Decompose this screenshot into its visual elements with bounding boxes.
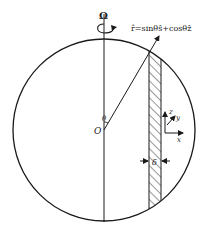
boundary-layer-strip: [149, 30, 161, 230]
z-axis-label: z: [168, 108, 173, 116]
radial-vector-label: r̂=sinθŝ+cosθẑ: [131, 24, 191, 33]
rotation-arrow-icon: [98, 24, 117, 33]
origin-label: O: [94, 126, 102, 136]
y-axis-label: y: [175, 114, 181, 122]
x-axis-label: x: [177, 136, 181, 144]
delta-label: δ: [152, 158, 157, 167]
sphere-diagram: Ω r̂=sinθŝ+cosθẑ θ O z y x δ: [0, 0, 215, 231]
omega-label: Ω: [99, 10, 108, 21]
theta-label: θ: [102, 115, 107, 123]
local-axes: [165, 112, 183, 133]
